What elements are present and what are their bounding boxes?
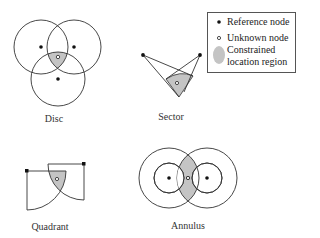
legend-label-constrained-line2: location region (227, 56, 287, 67)
legend-label-reference-node: Reference node (227, 16, 289, 27)
hollow-dot-icon (217, 36, 220, 39)
panel-label-annulus: Annulus (171, 221, 205, 231)
legend-label-constrained-line1: Constrained (227, 44, 275, 55)
panel-label-sector: Sector (158, 112, 184, 122)
panel-label-quadrant: Quadrant (31, 222, 68, 232)
panel-label-disc: Disc (45, 114, 63, 124)
legend: Reference node Unknown node Constrained … (207, 12, 296, 73)
filled-dot-icon (217, 20, 221, 24)
legend-label-unknown-node: Unknown node (227, 32, 288, 43)
gray-ellipse-icon (213, 46, 225, 64)
